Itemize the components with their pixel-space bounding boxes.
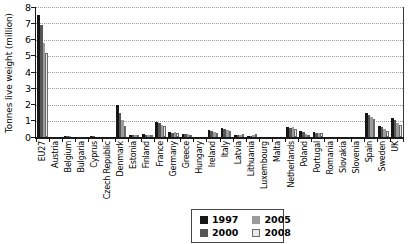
gridline bbox=[36, 56, 403, 57]
x-category-label: Estonia bbox=[129, 141, 139, 169]
legend-swatch-icon bbox=[200, 216, 208, 224]
y-axis-tick-label: 1 bbox=[14, 115, 31, 126]
legend-label: 1997 bbox=[212, 215, 238, 225]
x-category-label: Slovenia bbox=[352, 141, 362, 173]
x-category-label: Denmark bbox=[116, 141, 126, 176]
y-axis-line bbox=[35, 7, 37, 138]
legend-swatch-icon bbox=[252, 216, 260, 224]
x-category-label: Malta bbox=[273, 141, 283, 162]
gridline bbox=[36, 23, 403, 24]
x-category-label: Latvia bbox=[234, 141, 244, 164]
y-axis-tick-label: 8 bbox=[14, 2, 31, 13]
x-category-label: Austria bbox=[51, 141, 61, 168]
x-axis-tick bbox=[167, 139, 168, 142]
x-category-label: Slovakia bbox=[339, 141, 349, 173]
x-axis-tick bbox=[154, 139, 155, 142]
y-axis-title: Tonnes live weight (million) bbox=[2, 5, 14, 140]
x-category-label: France bbox=[156, 141, 166, 166]
x-axis-tick bbox=[49, 139, 50, 142]
legend-label: 2005 bbox=[264, 215, 290, 225]
y-axis-tick-label: 7 bbox=[14, 18, 31, 29]
x-category-label: Lithuania bbox=[247, 141, 257, 176]
legend-swatch-icon bbox=[252, 229, 260, 237]
plot-right-border bbox=[403, 7, 404, 137]
x-category-label: Greece bbox=[182, 141, 192, 168]
y-axis-tick-label: 6 bbox=[14, 34, 31, 45]
x-category-label: Czech Republic bbox=[103, 141, 113, 199]
x-axis-tick bbox=[36, 139, 37, 142]
bar-France-2008 bbox=[163, 126, 166, 137]
legend: 1997200020052008 bbox=[191, 209, 284, 243]
legend-item-1997: 1997 bbox=[200, 215, 238, 225]
legend-swatch-icon bbox=[200, 229, 208, 237]
legend-label: 2008 bbox=[264, 228, 290, 238]
y-axis-tick-label: 2 bbox=[14, 99, 31, 110]
bar-Netherlands-2008 bbox=[294, 129, 297, 137]
x-category-label: Finland bbox=[142, 141, 152, 168]
legend-item-2000: 2000 bbox=[200, 228, 238, 238]
bar-Denmark-2008 bbox=[124, 126, 127, 137]
x-axis-tick bbox=[403, 139, 404, 142]
x-category-label: Spain bbox=[365, 141, 375, 162]
gridline bbox=[36, 88, 403, 89]
gridline bbox=[36, 40, 403, 41]
x-category-label: Belgium bbox=[64, 141, 74, 172]
x-category-label: Romania bbox=[326, 141, 336, 175]
x-category-label: Cyprus bbox=[90, 141, 100, 168]
y-axis-tick-label: 0 bbox=[14, 132, 31, 143]
legend-item-2008: 2008 bbox=[252, 228, 290, 238]
bar-chart: Tonnes live weight (million) 012345678 E… bbox=[0, 0, 409, 244]
x-category-label: Bulgaria bbox=[77, 141, 87, 173]
x-category-label: Portugal bbox=[313, 141, 323, 173]
bar-Spain-2008 bbox=[373, 119, 376, 137]
y-axis-tick-label: 4 bbox=[14, 67, 31, 78]
x-category-label: EU27 bbox=[38, 141, 48, 161]
y-axis-tick-label: 5 bbox=[14, 50, 31, 61]
x-axis-line bbox=[35, 137, 404, 139]
legend-label: 2000 bbox=[212, 228, 238, 238]
x-category-label: Hungary bbox=[195, 141, 205, 174]
x-category-label: Ireland bbox=[208, 141, 218, 167]
x-category-label: Germany bbox=[169, 141, 179, 176]
x-category-label: Sweden bbox=[378, 141, 388, 171]
x-axis-tick bbox=[298, 139, 299, 142]
gridline bbox=[36, 7, 403, 8]
y-axis-tick-label: 3 bbox=[14, 83, 31, 94]
legend-item-2005: 2005 bbox=[252, 215, 290, 225]
x-category-label: Poland bbox=[300, 141, 310, 167]
bar-EU27-2008 bbox=[45, 53, 48, 138]
x-axis-tick bbox=[285, 139, 286, 142]
x-category-label: Netherlands bbox=[287, 141, 297, 188]
gridline bbox=[36, 105, 403, 106]
x-category-label: UK bbox=[391, 141, 401, 152]
gridline bbox=[36, 121, 403, 122]
bar-UK-2008 bbox=[399, 125, 402, 137]
x-category-label: Italy bbox=[221, 141, 231, 157]
gridline bbox=[36, 72, 403, 73]
x-category-label: Luxembourg bbox=[260, 141, 270, 189]
